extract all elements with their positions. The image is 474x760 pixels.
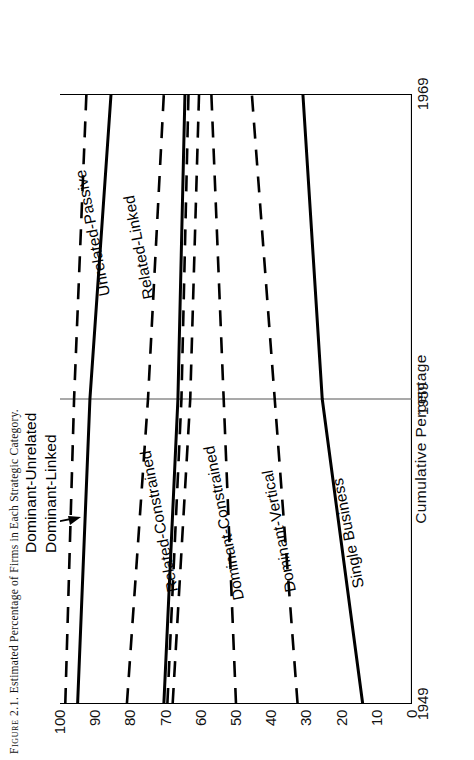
y-tick-90: 90 [86, 710, 103, 736]
y-tick-100: 100 [51, 710, 68, 736]
y-tick-60: 60 [192, 710, 209, 736]
figure-number: Figure 2.1. [8, 696, 20, 754]
axis-lines [60, 94, 412, 704]
figure-page: Figure 2.1. Estimated Percentage of Firm… [0, 0, 474, 760]
y-tick-30: 30 [297, 710, 314, 736]
x-tick-1969: 1969 [414, 78, 431, 111]
x-tick-1959: 1959 [414, 383, 431, 416]
x-tick-1949: 1949 [414, 688, 431, 721]
y-tick-40: 40 [262, 710, 279, 736]
figure-caption: Figure 2.1. Estimated Percentage of Firm… [8, 54, 28, 754]
y-tick-10: 10 [368, 710, 385, 736]
arrowhead-dominant-linked [68, 516, 81, 525]
plot-area: Acquisitive Conglomerate Unrelated-Passi… [60, 94, 412, 704]
series-label-dominant-linked: Dominant-Linked [42, 434, 60, 553]
rotated-figure-frame: Figure 2.1. Estimated Percentage of Firm… [0, 0, 474, 760]
chart-svg [60, 94, 412, 704]
y-tick-80: 80 [121, 710, 138, 736]
y-axis-tick-labels: 100 90 80 70 60 50 40 30 20 10 0 [60, 710, 412, 744]
figure-caption-text: Estimated Percentage of Firms in Each St… [8, 409, 20, 693]
y-tick-70: 70 [157, 710, 174, 736]
series-label-dominant-unrelated: Dominant-Unrelated [22, 412, 40, 553]
y-tick-50: 50 [227, 710, 244, 736]
y-tick-20: 20 [333, 710, 350, 736]
x-axis-tick-labels: 1949 1959 1969 [414, 94, 436, 704]
